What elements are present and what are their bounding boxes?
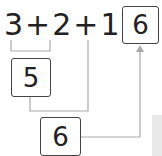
arrow-up-icon	[136, 45, 144, 52]
result-box: 6	[122, 6, 159, 44]
grey-panel-edge	[152, 115, 162, 156]
term-2: 2	[52, 7, 71, 43]
plus-sign: +	[25, 7, 50, 43]
first-sum-box: 5	[11, 58, 51, 97]
plus-sign: +	[73, 7, 98, 43]
term-3: 3	[4, 7, 23, 43]
second-sum-box: 6	[40, 117, 81, 156]
term-1: 1	[100, 7, 119, 43]
